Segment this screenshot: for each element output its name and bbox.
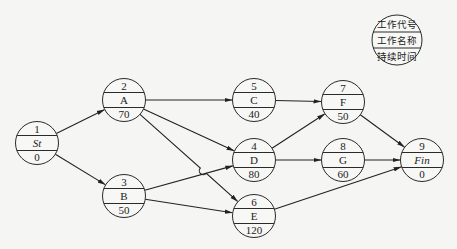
- node-4: 4D80: [233, 139, 276, 182]
- node-name: St: [33, 137, 43, 149]
- node-id: 4: [251, 140, 257, 152]
- node-duration: 50: [119, 204, 131, 216]
- node-2: 2A70: [103, 79, 146, 122]
- node-name: B: [120, 190, 127, 202]
- legend-label-work-name: 工作名称: [377, 35, 417, 46]
- node-id: 9: [419, 140, 425, 152]
- node-id: 8: [340, 140, 346, 152]
- legend-node: 工作代号 工作名称 持续时间: [372, 15, 422, 65]
- edge-1-to-3: [55, 154, 105, 184]
- node-name: A: [120, 94, 128, 106]
- node-id: 3: [121, 176, 127, 188]
- edge-5-to-7: [276, 101, 322, 102]
- node-name: C: [250, 94, 257, 106]
- nodes-layer: 1St02A703B504D805C406E1207F508G609Fin0: [16, 79, 444, 238]
- legend-label-duration: 持续时间: [377, 51, 417, 62]
- node-name: Fin: [413, 154, 430, 166]
- network-diagram: 1St02A703B504D805C406E1207F508G609Fin0 工…: [0, 0, 457, 249]
- node-name: E: [251, 210, 258, 222]
- node-duration: 50: [338, 110, 350, 122]
- node-duration: 0: [34, 151, 40, 163]
- node-7: 7F50: [322, 81, 365, 124]
- node-duration: 120: [246, 224, 263, 236]
- node-duration: 70: [119, 108, 131, 120]
- edge-4-to-7: [272, 114, 325, 148]
- node-id: 5: [251, 80, 257, 92]
- node-3: 3B50: [103, 175, 146, 218]
- node-id: 1: [34, 123, 40, 135]
- node-duration: 60: [338, 168, 350, 180]
- node-duration: 0: [419, 168, 425, 180]
- node-9: 9Fin0: [401, 139, 444, 182]
- edge-7-to-9: [360, 115, 404, 147]
- node-name: G: [339, 154, 347, 166]
- node-5: 5C40: [233, 79, 276, 122]
- node-8: 8G60: [322, 139, 365, 182]
- node-name: F: [340, 96, 346, 108]
- edge-1-to-2: [56, 110, 104, 134]
- edge-3-to-6: [145, 199, 232, 212]
- edge-3-to-4: [145, 166, 233, 190]
- legend-label-work-code: 工作代号: [377, 19, 417, 30]
- node-6: 6E120: [233, 195, 276, 238]
- node-1: 1St0: [16, 122, 59, 165]
- node-duration: 40: [249, 108, 261, 120]
- edge-2-to-6: [140, 114, 238, 201]
- node-id: 2: [121, 80, 127, 92]
- node-duration: 80: [249, 168, 261, 180]
- node-id: 6: [251, 196, 257, 208]
- node-name: D: [250, 154, 258, 166]
- node-id: 7: [340, 82, 346, 94]
